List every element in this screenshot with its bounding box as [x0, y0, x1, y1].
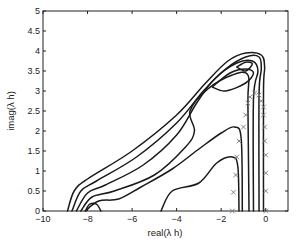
x-tick-label: 0	[263, 214, 268, 224]
y-tick-label: 2.5	[27, 106, 40, 116]
y-tick-label: 5	[35, 6, 40, 16]
y-tick-label: 4.5	[27, 26, 40, 36]
y-tick-label: 4	[35, 46, 40, 56]
x-tick-label: −4	[172, 214, 182, 224]
y-tick-label: 3.5	[27, 66, 40, 76]
y-tick-label: 2	[35, 126, 40, 136]
x-tick-label: −2	[216, 214, 226, 224]
y-axis-label: imag(λ h)	[5, 91, 16, 131]
y-tick-label: 1.5	[27, 146, 40, 156]
contour-chart: −10−8−6−4−20 00.511.522.533.544.55 real(…	[0, 0, 304, 250]
y-tick-label: 0.5	[27, 186, 40, 196]
x-axis-label: real(λ h)	[148, 227, 183, 238]
y-tick-label: 3	[35, 86, 40, 96]
x-tick-label: −6	[127, 214, 137, 224]
x-tick-label: −8	[82, 214, 92, 224]
plot-area	[43, 11, 288, 211]
y-tick-label: 1	[35, 166, 40, 176]
y-tick-label: 0	[35, 206, 40, 216]
